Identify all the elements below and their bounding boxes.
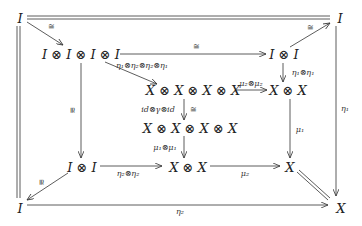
label-i4-i2top: ≅ (193, 43, 200, 51)
label-i2bot-x2bot: η₂⊗η₂ (117, 170, 140, 178)
label-x2right-xmid: μ₁ (296, 126, 304, 134)
label-x4b-x2bot: μ₁⊗μ₁ (153, 144, 177, 152)
label-tr-br: η₁ (341, 105, 349, 113)
label-x2bot-xmid: μ₂ (241, 170, 249, 178)
label-i2bot-bl: ≅ (37, 179, 45, 186)
label-bl-br: η₂ (176, 208, 184, 216)
label-x4a-x4b-right: ≅ (190, 106, 197, 114)
node-top-left-I: I (17, 12, 22, 25)
label-i2top-x2right: η₁⊗η₁ (292, 69, 315, 77)
diagram-arrows (0, 0, 362, 226)
node-X-mid: X (285, 161, 294, 174)
node-IxIxIxI: I ⊗ I ⊗ I ⊗ I (42, 48, 120, 61)
node-bottom-right-X: X (336, 202, 345, 215)
label-x4a-x4b-left: id⊗γ⊗id (141, 106, 175, 114)
node-IxI-bottom: I ⊗ I (67, 161, 96, 174)
label-x4a-x2right: μ₂⊗μ₂ (239, 80, 263, 88)
node-bottom-left-I: I (17, 202, 22, 215)
label-tl-i4: ≅ (48, 23, 55, 31)
label-i4-i2bot: ≅ (68, 107, 76, 114)
node-top-right-I: I (337, 12, 342, 25)
commutative-diagram: I I I X I ⊗ I ⊗ I ⊗ I I ⊗ I X ⊗ X ⊗ X ⊗ … (0, 0, 362, 226)
node-XxX-right: X ⊗ X (269, 84, 307, 97)
node-XxXxXxX-lower: X ⊗ X ⊗ X ⊗ X (143, 122, 238, 135)
node-XxX-bottom: X ⊗ X (169, 161, 207, 174)
label-i4-x4a: η₁⊗η₂⊗η₂⊗η₁ (116, 62, 168, 70)
node-IxI-top: I ⊗ I (269, 48, 298, 61)
label-i2top-tr: ≅ (307, 24, 314, 32)
node-XxXxXxX-upper: X ⊗ X ⊗ X ⊗ X (146, 84, 241, 97)
